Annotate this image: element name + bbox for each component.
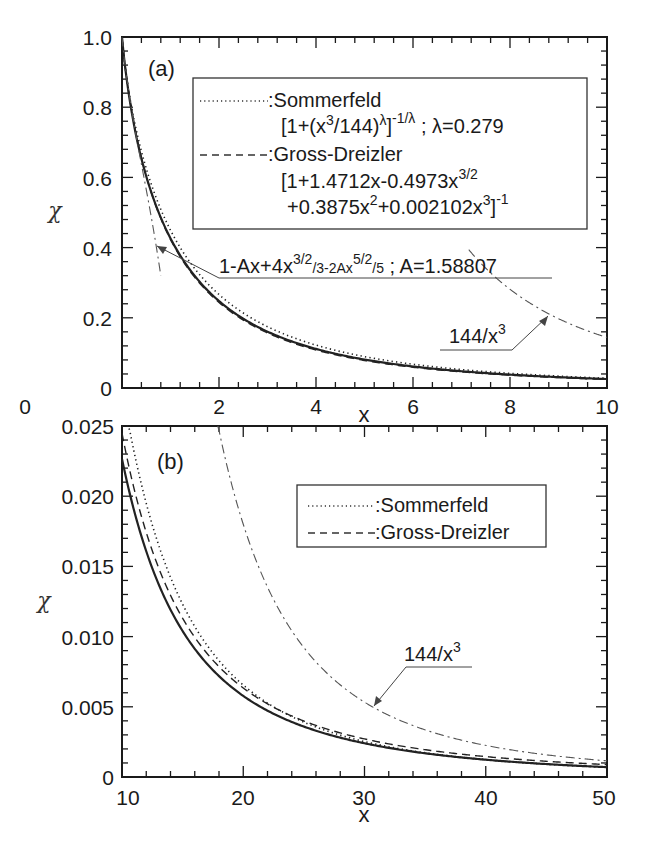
panel-a-series-annotation: 1-Ax+4x3/2/3-2Ax5/2/5 ; A=1.58807 <box>157 246 552 278</box>
panel-a-legend: :Sommerfeld [1+(x3/144)λ]-1/λ ; λ=0.279 … <box>193 78 587 229</box>
x-tick-label: 10 <box>116 786 139 809</box>
y-tick-label: 0.6 <box>83 167 112 190</box>
x-tick-label: 4 <box>310 395 322 418</box>
x-tick-label: 10 <box>595 395 618 418</box>
legend-gross-dreizler-label: :Gross-Dreizler <box>375 521 510 543</box>
panel-b-x-axis-title: x <box>359 802 370 827</box>
y-tick-label: 0.2 <box>83 307 112 330</box>
panel-a-tag: (a) <box>148 56 175 81</box>
panel-b-frame <box>122 426 607 777</box>
panel-b-tag: (b) <box>157 449 184 474</box>
series-expansion-label: 1-Ax+4x3/2/3-2Ax5/2/5 ; A=1.58807 <box>219 251 497 277</box>
annotation-leader-line <box>374 667 472 706</box>
x-tick-label: 2 <box>213 395 225 418</box>
curve-asymptote-144-x3 <box>218 426 607 761</box>
panel-b-curves <box>122 426 607 767</box>
x-tick-label: 20 <box>231 786 254 809</box>
y-tick-label: 0.025 <box>61 415 114 438</box>
panel-b-y-axis-title: χ <box>35 588 52 613</box>
legend-gross-dreizler-formula-line1: [1+1.4712x-0.4973x3/2 <box>281 166 478 192</box>
legend-gross-dreizler-formula-line2: +0.3875x2+0.002102x3]-1 <box>287 191 509 218</box>
y-tick-label: 0.005 <box>61 696 114 719</box>
panel-a: 0 0.2 0.4 0.6 0.8 1.0 χ 0 2 4 6 8 10 x (… <box>19 26 619 427</box>
arrowhead-icon <box>539 316 548 326</box>
y-tick-label: 0.015 <box>61 555 114 578</box>
panel-b-ticks <box>122 426 607 777</box>
y-tick-label: 0.4 <box>83 237 113 260</box>
asymptote-label: 144/x3 <box>404 639 461 665</box>
legend-sommerfeld-label: :Sommerfeld <box>375 494 488 516</box>
y-tick-label: 0.8 <box>83 96 112 119</box>
panel-a-x-axis-title: x <box>359 402 370 427</box>
legend-sommerfeld-label: :Sommerfeld <box>268 89 381 111</box>
panel-a-asymptote-annotation: 144/x3 <box>440 316 548 350</box>
x-tick-label: 0 <box>19 395 31 418</box>
legend-gross-dreizler-label: :Gross-Dreizler <box>268 143 403 165</box>
y-tick-label: 0 <box>102 766 114 789</box>
panel-b-y-tick-labels: 0 0.005 0.010 0.015 0.020 0.025 <box>61 415 114 789</box>
panel-b-asymptote-annotation: 144/x3 <box>374 639 472 706</box>
y-tick-label: 1.0 <box>83 26 112 49</box>
figure: 0 0.2 0.4 0.6 0.8 1.0 χ 0 2 4 6 8 10 x (… <box>0 0 648 844</box>
y-tick-label: 0.020 <box>61 485 114 508</box>
x-tick-label: 8 <box>504 395 516 418</box>
panel-b-legend: :Sommerfeld :Gross-Dreizler <box>297 485 546 547</box>
y-tick-label: 0 <box>100 377 112 400</box>
x-tick-label: 6 <box>407 395 419 418</box>
x-tick-label: 50 <box>592 786 615 809</box>
panel-a-y-axis-title: χ <box>46 198 63 223</box>
panel-a-y-tick-labels: 0 0.2 0.4 0.6 0.8 1.0 <box>83 26 113 400</box>
asymptote-label: 144/x3 <box>449 321 506 347</box>
curve-sommerfeld <box>122 426 607 767</box>
x-tick-label: 40 <box>474 786 497 809</box>
curve-gross-dreizler <box>122 433 607 764</box>
panel-b: 0 0.005 0.010 0.015 0.020 0.025 χ 10 20 … <box>35 415 615 827</box>
y-tick-label: 0.010 <box>61 626 114 649</box>
